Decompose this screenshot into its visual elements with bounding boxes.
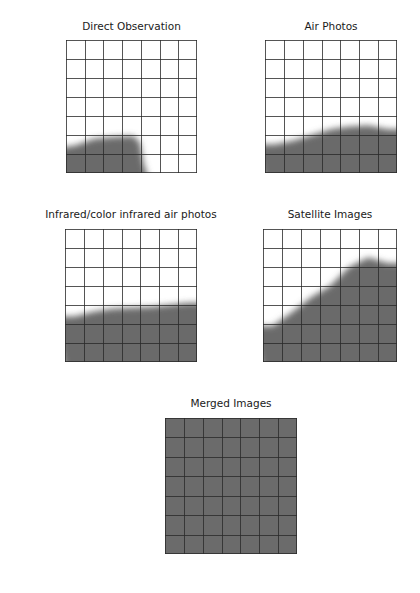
panel-title: Satellite Images [223,208,420,220]
plot-grid [66,40,197,173]
panel-title: Infrared/color infrared air photos [25,208,237,220]
panel-title: Merged Images [125,397,337,409]
coverage-area [56,136,148,183]
panel-title: Direct Observation [26,20,237,32]
plot-grid [65,229,197,362]
plot-grid [263,229,397,362]
plot-grid [165,418,297,554]
panel-title: Air Photos [225,20,420,32]
plot-grid [265,40,397,173]
coverage-area [253,258,407,373]
